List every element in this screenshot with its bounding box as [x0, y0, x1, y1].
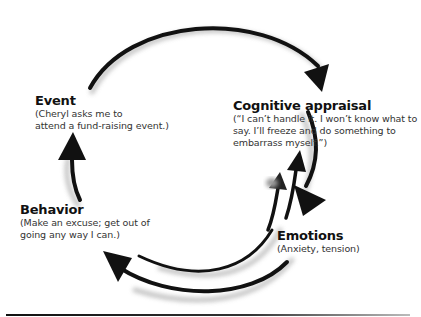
node-title: Behavior [20, 202, 150, 217]
node-title: Emotions [277, 228, 360, 243]
node-cognitive-appraisal: Cognitive appraisal (“I can’t handle it.… [233, 98, 417, 149]
node-description: (Cheryl asks me to [35, 108, 169, 120]
node-description: embarrass myself.”) [233, 137, 417, 149]
arrow-behavior-to-cognitive [268, 188, 278, 230]
node-behavior: Behavior (Make an excuse; get out of goi… [20, 202, 150, 241]
bottom-divider [6, 314, 410, 316]
arrowhead-icon [294, 185, 326, 216]
node-emotions: Emotions (Anxiety, tension) [277, 228, 360, 255]
node-description: (Anxiety, tension) [277, 243, 360, 255]
node-title: Event [35, 93, 169, 108]
node-event: Event (Cheryl asks me to attend a fund-r… [35, 93, 169, 132]
arrowhead-icon [304, 64, 329, 92]
arrow-emotions-to-cognitive [286, 170, 296, 218]
node-description: attend a fund-raising event.) [35, 120, 169, 132]
node-description: going any way I can.) [20, 229, 150, 241]
arrowhead-icon [287, 150, 306, 172]
cycle-arrows [0, 0, 421, 317]
node-description: (Make an excuse; get out of [20, 217, 150, 229]
arrowhead-icon [103, 251, 132, 282]
node-title: Cognitive appraisal [233, 98, 417, 113]
arrowhead-icon [58, 132, 86, 160]
node-description: say. I’ll freeze and do something to [233, 125, 417, 137]
node-description: (“I can’t handle it. I won’t know what t… [233, 113, 417, 125]
